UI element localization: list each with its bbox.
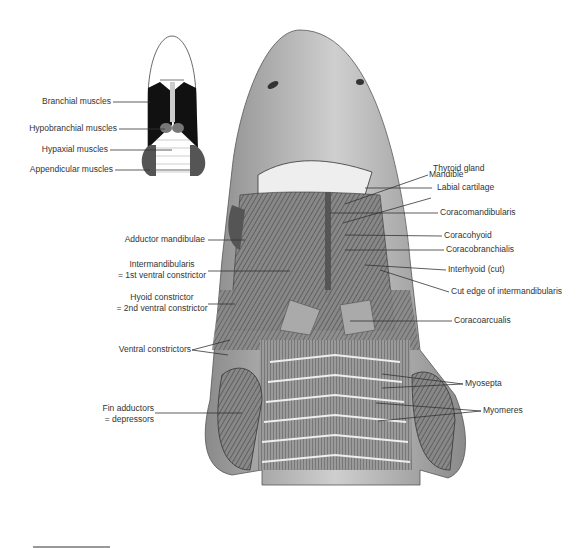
label-myosepta: Myosepta <box>465 378 502 389</box>
label-labial-cartilage: Labial cartilage <box>437 182 494 193</box>
label-adductor-mandibulae: Adductor mandibulae <box>125 234 205 245</box>
label-hypaxial-muscles: Hypaxial muscles <box>42 144 108 155</box>
label-intermandibularis: Intermandibularis = 1st ventral constric… <box>112 259 212 281</box>
label-myomeres: Myomeres <box>483 405 523 416</box>
label-fin-adductors: Fin adductors = depressors <box>103 403 155 425</box>
label-coracomandibularis: Coracomandibularis <box>440 207 516 218</box>
label-thyroid-gland: Thyroid gland <box>433 163 485 174</box>
inset-diagram <box>142 36 206 176</box>
label-coracohyoid: Coracohyoid <box>444 230 492 241</box>
label-interhyoid-cut: Interhyoid (cut) <box>448 264 505 275</box>
label-ventral-constrictors: Ventral constrictors <box>119 344 191 355</box>
label-branchial-muscles: Branchial muscles <box>42 96 111 107</box>
label-coracoarcualis: Coracoarcualis <box>454 315 511 326</box>
label-cut-edge-intermandibularis: Cut edge of intermandibularis <box>451 286 562 297</box>
label-appendicular-muscles: Appendicular muscles <box>30 164 113 175</box>
label-hypobranchial-muscles: Hypobranchial muscles <box>29 123 117 134</box>
label-hyoid-constrictor: Hyoid constrictor = 2nd ventral constric… <box>112 292 212 314</box>
main-shark-drawing <box>205 30 465 485</box>
label-coracobranchialis: Coracobranchialis <box>446 244 514 255</box>
